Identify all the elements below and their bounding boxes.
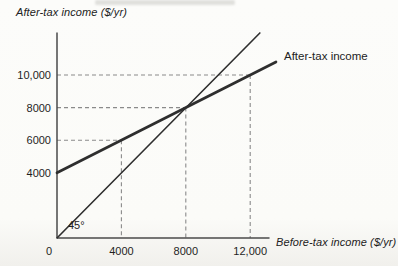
y-axis-title: After-tax income ($/yr) — [16, 6, 127, 18]
y-tick-label: 10,000 — [17, 69, 51, 81]
chart-svg: 40006000800010,00004000800012,000 — [0, 0, 398, 266]
x-tick-label: 4000 — [109, 245, 133, 257]
x-tick-label: 0 — [46, 245, 52, 257]
chart-figure: 40006000800010,00004000800012,000 After-… — [0, 0, 398, 266]
x-tick-label: 8000 — [174, 245, 198, 257]
after-tax-income-line — [57, 62, 276, 173]
45-degree-angle-label: 45° — [68, 219, 85, 231]
x-axis-title: Before-tax income ($/yr) — [276, 236, 396, 248]
after-tax-income-line-label: After-tax income — [284, 50, 368, 62]
y-tick-label: 4000 — [27, 167, 51, 179]
x-tick-label: 12,000 — [233, 245, 267, 257]
y-tick-label: 8000 — [27, 102, 51, 114]
y-tick-label: 6000 — [27, 134, 51, 146]
45-degree-line — [57, 33, 260, 238]
